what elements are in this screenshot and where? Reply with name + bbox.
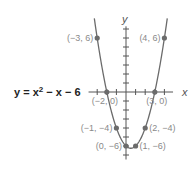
axes xyxy=(89,26,173,159)
y-axis-label: y xyxy=(121,13,129,25)
point-label: (−3, 6) xyxy=(67,33,93,43)
data-point xyxy=(123,143,128,148)
data-point xyxy=(162,35,167,40)
x-axis-label: x xyxy=(181,86,188,98)
point-label: (3, 0) xyxy=(146,96,167,106)
point-label: (4, 6) xyxy=(139,33,160,43)
data-point xyxy=(95,35,100,40)
data-point xyxy=(104,89,109,94)
point-label: (−1, −4) xyxy=(81,123,113,133)
data-point xyxy=(143,125,148,130)
equation-label: y = x2 − x − 6 xyxy=(14,85,81,98)
point-label: (0, −6) xyxy=(96,141,122,151)
point-label: (1, −6) xyxy=(140,141,166,151)
point-label: (−2, 0) xyxy=(92,96,118,106)
data-point xyxy=(133,143,138,148)
data-point xyxy=(152,89,157,94)
parabola-chart: (−3, 6)(4, 6)(−2, 0)(3, 0)(−1, −4)(2, −4… xyxy=(0,0,195,171)
point-label: (2, −4) xyxy=(149,123,175,133)
data-point xyxy=(114,125,119,130)
